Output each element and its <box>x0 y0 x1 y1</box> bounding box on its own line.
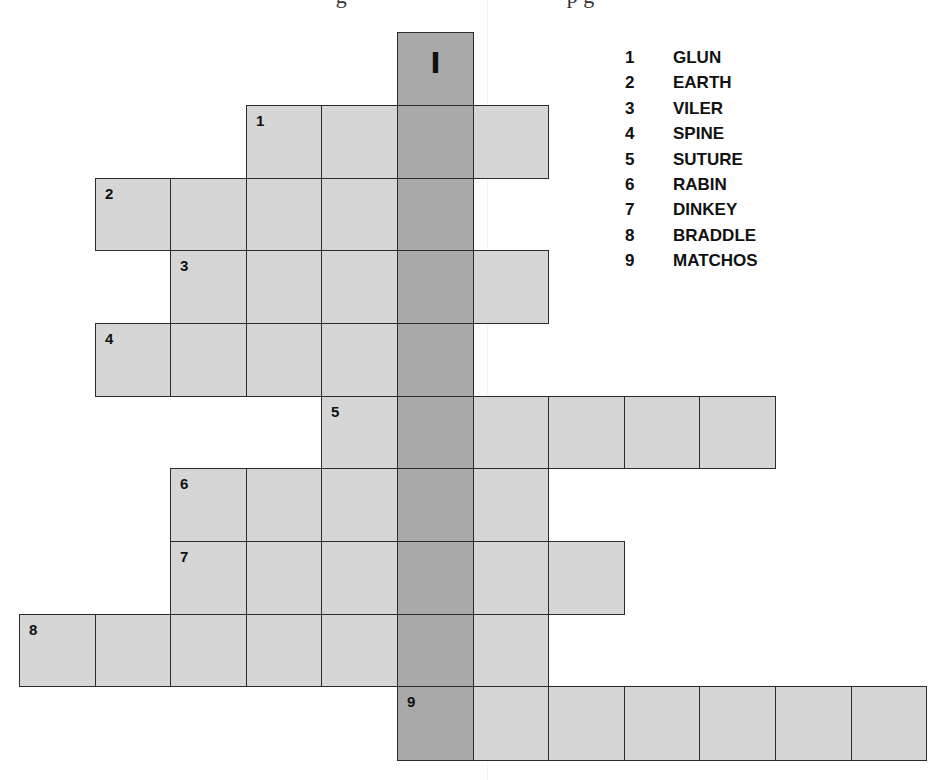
crossword-cell[interactable]: 8 <box>19 614 96 687</box>
crossword-cell[interactable] <box>473 105 549 179</box>
word-list-item: 3VILER <box>625 96 758 121</box>
word-number: 9 <box>625 248 673 273</box>
word-text: SUTURE <box>673 147 743 172</box>
key-column-cell[interactable]: 9 <box>397 686 474 761</box>
word-text: SPINE <box>673 121 724 146</box>
word-number: 8 <box>625 223 673 248</box>
crossword-cell[interactable] <box>624 396 700 469</box>
crossword-cell[interactable]: 3 <box>170 250 247 324</box>
word-number: 6 <box>625 172 673 197</box>
crossword-cell[interactable] <box>473 396 549 469</box>
word-text: VILER <box>673 96 723 121</box>
page-heading-cutoff: g p g <box>0 0 930 6</box>
crossword-cell[interactable] <box>699 686 776 761</box>
crossword-cell[interactable]: 7 <box>170 541 247 615</box>
crossword-cell[interactable]: 5 <box>321 396 398 469</box>
crossword-cell[interactable] <box>246 541 322 615</box>
crossword-cell[interactable] <box>473 541 549 615</box>
key-column-header-cell[interactable]: I <box>397 32 474 106</box>
word-number: 3 <box>625 96 673 121</box>
clue-number: 8 <box>29 621 37 638</box>
crossword-cell[interactable] <box>321 541 398 615</box>
word-list-item: 4SPINE <box>625 121 758 146</box>
clue-number: 6 <box>180 475 188 492</box>
crossword-cell[interactable] <box>321 178 398 251</box>
word-list-item: 5SUTURE <box>625 147 758 172</box>
crossword-cell[interactable] <box>246 323 322 397</box>
crossword-cell[interactable] <box>321 468 398 542</box>
crossword-cell[interactable] <box>321 323 398 397</box>
word-number: 1 <box>625 45 673 70</box>
word-number: 7 <box>625 197 673 222</box>
crossword-cell[interactable] <box>624 686 700 761</box>
clue-number: 9 <box>407 693 415 710</box>
crossword-cell[interactable] <box>775 686 852 761</box>
crossword-cell[interactable] <box>246 614 322 687</box>
crossword-cell[interactable] <box>170 614 247 687</box>
crossword-cell[interactable] <box>851 686 927 761</box>
key-column-cell[interactable] <box>397 468 474 542</box>
key-column-cell[interactable] <box>397 250 474 324</box>
word-text: MATCHOS <box>673 248 758 273</box>
clue-number: 1 <box>256 112 264 129</box>
clue-number: 3 <box>180 257 188 274</box>
clue-number: 4 <box>105 330 113 347</box>
crossword-cell[interactable]: 2 <box>95 178 171 251</box>
crossword-cell[interactable] <box>321 250 398 324</box>
crossword-cell[interactable] <box>548 686 625 761</box>
crossword-cell[interactable] <box>548 541 625 615</box>
key-column-cell[interactable] <box>397 541 474 615</box>
crossword-cell[interactable] <box>321 614 398 687</box>
crossword-cell[interactable] <box>473 686 549 761</box>
word-number: 2 <box>625 70 673 95</box>
crossword-cell[interactable] <box>95 614 171 687</box>
key-column-cell[interactable] <box>397 323 474 397</box>
word-list-item: 1GLUN <box>625 45 758 70</box>
crossword-cell[interactable] <box>699 396 776 469</box>
clue-number: 2 <box>105 185 113 202</box>
crossword-cell[interactable]: 4 <box>95 323 171 397</box>
clue-number: 7 <box>180 548 188 565</box>
word-list-item: 8BRADDLE <box>625 223 758 248</box>
key-column-label: I <box>398 47 473 80</box>
word-text: GLUN <box>673 45 721 70</box>
word-text: BRADDLE <box>673 223 756 248</box>
word-list-item: 2EARTH <box>625 70 758 95</box>
crossword-cell[interactable] <box>246 178 322 251</box>
word-text: EARTH <box>673 70 732 95</box>
crossword-cell[interactable] <box>246 468 322 542</box>
word-number: 4 <box>625 121 673 146</box>
crossword-cell[interactable] <box>473 468 549 542</box>
word-text: DINKEY <box>673 197 737 222</box>
key-column-cell[interactable] <box>397 396 474 469</box>
crossword-cell[interactable] <box>170 323 247 397</box>
crossword-cell[interactable] <box>170 178 247 251</box>
word-text: RABIN <box>673 172 727 197</box>
crossword-cell[interactable] <box>321 105 398 179</box>
key-column-cell[interactable] <box>397 178 474 251</box>
crossword-cell[interactable]: 6 <box>170 468 247 542</box>
key-column-cell[interactable] <box>397 614 474 687</box>
word-list-item: 6RABIN <box>625 172 758 197</box>
crossword-cell[interactable] <box>473 250 549 324</box>
key-column-cell[interactable] <box>397 105 474 179</box>
crossword-cell[interactable]: 1 <box>246 105 322 179</box>
crossword-cell[interactable] <box>548 396 625 469</box>
word-list: 1GLUN 2EARTH 3VILER 4SPINE 5SUTURE 6RABI… <box>625 45 758 274</box>
word-list-item: 9MATCHOS <box>625 248 758 273</box>
word-number: 5 <box>625 147 673 172</box>
crossword-cell[interactable] <box>246 250 322 324</box>
clue-number: 5 <box>331 403 339 420</box>
crossword-cell[interactable] <box>473 614 549 687</box>
word-list-item: 7DINKEY <box>625 197 758 222</box>
